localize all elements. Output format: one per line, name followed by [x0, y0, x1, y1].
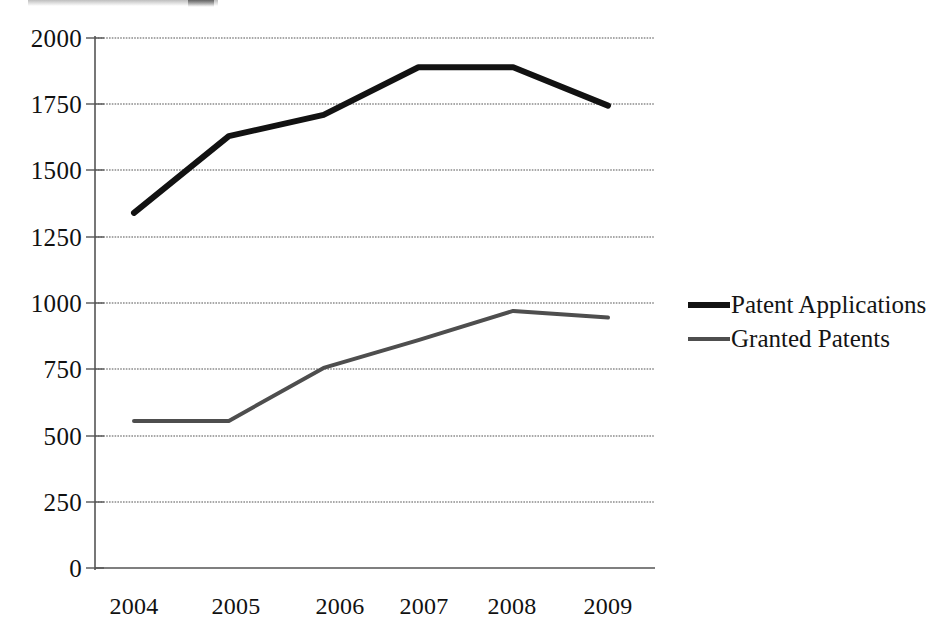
x-tick-label-2007: 2007 — [379, 594, 469, 618]
y-tick-label-750: 750 — [4, 357, 82, 382]
x-tick-label-2005: 2005 — [191, 594, 281, 618]
legend: Patent Applications Granted Patents — [688, 288, 923, 356]
y-tick-label-0: 0 — [4, 556, 82, 581]
legend-item-patent-applications[interactable]: Patent Applications — [688, 288, 923, 322]
x-tick-label-2009: 2009 — [563, 594, 653, 618]
y-tick-label-1000: 1000 — [4, 291, 82, 316]
y-tick-label-1750: 1750 — [4, 92, 82, 117]
y-tick-label-500: 500 — [4, 424, 82, 449]
x-tick-label-2008: 2008 — [467, 594, 557, 618]
y-tick-label-1500: 1500 — [4, 158, 82, 183]
legend-item-granted-patents[interactable]: Granted Patents — [688, 322, 923, 356]
line-chart: 2000 1750 1500 1250 1000 750 500 250 0 2… — [0, 0, 929, 643]
x-tick-label-2006: 2006 — [295, 594, 385, 618]
x-tick-label-2004: 2004 — [89, 594, 179, 618]
legend-swatch-icon-patent-applications — [688, 302, 730, 308]
legend-swatch-icon-granted-patents — [688, 337, 730, 341]
legend-label-patent-applications: Patent Applications — [730, 291, 926, 319]
series-line-granted-patents — [134, 311, 608, 421]
y-tick-label-2000: 2000 — [4, 26, 82, 51]
series-line-patent-applications — [134, 67, 608, 213]
gridlines — [95, 38, 655, 502]
y-tick-label-250: 250 — [4, 490, 82, 515]
y-tick-label-1250: 1250 — [4, 225, 82, 250]
legend-label-granted-patents: Granted Patents — [730, 325, 890, 353]
